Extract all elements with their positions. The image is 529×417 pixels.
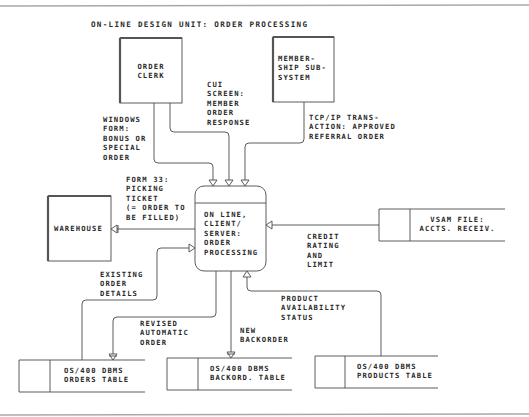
membership-label: MEMBER- SHIP SUB- SYSTEM [278,54,327,82]
flow-label-cui-screen: CUI SCREEN: MEMBER ORDER RESPONSE [207,80,250,127]
backord-table-label: OS/400 DBMS BACKORD. TABLE [210,364,286,383]
arrowhead-icon [266,221,272,229]
arrowhead-icon [109,354,117,360]
flow-windows-form[interactable] [154,103,213,180]
diagram-canvas [0,0,529,417]
flow-label-form33: FORM 33: PICKING TICKET (= ORDER TO BE F… [126,175,186,222]
products-table-label: OS/400 DBMS PRODUCTS TABLE [357,362,433,381]
order-clerk-label: ORDER CLERK [120,62,182,81]
flow-label-windows-form: WINDOWS FORM: BONUS OR SPECIAL ORDER [103,115,146,162]
arrowhead-icon [189,244,195,252]
flow-label-product-availability: PRODUCT AVAILABILITY STATUS [281,294,346,322]
orders-table-label: OS/400 DBMS ORDERS TABLE [64,366,129,385]
flow-label-credit: CREDIT RATING AND LIMIT [307,232,340,270]
vsam-label: VSAM FILE: ACCTS. RECEIV. [410,215,505,234]
process-label: ON LINE, CLIENT/ SERVER: ORDER PROCESSIN… [204,210,258,257]
flow-label-revised: REVISED AUTOMATIC ORDER [140,319,189,347]
arrowhead-icon [241,180,249,186]
arrowhead-icon [227,352,235,358]
arrowhead-icon [243,271,251,277]
arrowhead-icon [225,180,233,186]
flow-label-new-backorder: NEW BACKORDER [240,326,289,345]
arrowhead-icon [209,180,217,186]
flow-tcpip[interactable] [245,102,304,180]
bottom-border [0,414,529,415]
flow-label-tcpip: TCP/IP TRANS- ACTION: APPROVED REFERRAL … [309,113,396,141]
diagram-title: ON-LINE DESIGN UNIT: ORDER PROCESSING [91,20,308,29]
arrowhead-icon [111,225,118,233]
top-border [0,5,529,6]
warehouse-label: WAREHOUSE [54,224,103,233]
flow-label-existing: EXISTING ORDER DETAILS [100,270,143,298]
